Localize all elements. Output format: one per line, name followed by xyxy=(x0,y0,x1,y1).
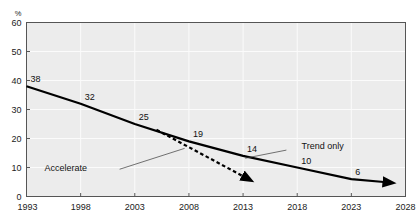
x-axis-tick-label: 2008 xyxy=(179,202,199,212)
data-point-label: 38 xyxy=(31,74,41,84)
y-axis-tick-label: 30 xyxy=(11,105,21,115)
data-point-label: 14 xyxy=(247,144,257,154)
y-axis-tick-label: 10 xyxy=(11,163,21,173)
chart-container: 0102030405060%19931998200320082013201820… xyxy=(0,0,416,218)
x-axis-tick-label: 2023 xyxy=(341,202,361,212)
y-axis-tick-label: 40 xyxy=(11,76,21,86)
x-axis-tick-label: 2028 xyxy=(395,202,415,212)
annotation-label-trend-only: Trend only xyxy=(302,141,345,151)
annotation-label-accelerate: Accelerate xyxy=(45,163,88,173)
line-chart: 0102030405060%19931998200320082013201820… xyxy=(0,0,416,218)
data-point-label: 25 xyxy=(139,112,149,122)
y-axis-unit-label: % xyxy=(15,9,22,18)
data-point-label: 10 xyxy=(301,156,311,166)
data-point-label: 19 xyxy=(193,129,203,139)
x-axis-tick-label: 2013 xyxy=(233,202,253,212)
x-axis-tick-label: 1998 xyxy=(71,202,91,212)
x-axis-tick-label: 2018 xyxy=(287,202,307,212)
y-axis-tick-label: 20 xyxy=(11,134,21,144)
data-point-label: 6 xyxy=(355,167,360,177)
y-axis-tick-label: 0 xyxy=(16,192,21,202)
x-axis-tick-label: 2003 xyxy=(125,202,145,212)
x-axis-tick-label: 1993 xyxy=(18,202,38,212)
data-point-label: 32 xyxy=(85,92,95,102)
y-axis-tick-label: 60 xyxy=(11,18,21,28)
y-axis-tick-label: 50 xyxy=(11,47,21,57)
